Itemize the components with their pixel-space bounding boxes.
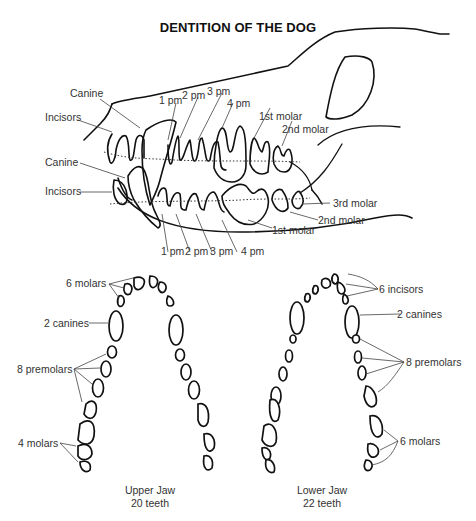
label-upper-jaw-premolars: 8 premolars bbox=[17, 364, 72, 375]
label-upper-4pm: 4 pm bbox=[227, 98, 250, 109]
label-lower-1pm: 1 pm bbox=[161, 246, 184, 257]
label-upper-incisors: Incisors bbox=[45, 112, 81, 123]
label-lower-1st-molar: 1st molar bbox=[272, 225, 315, 236]
lower-jaw-caption-title: Lower Jaw bbox=[282, 484, 362, 497]
label-upper-jaw-molars: 4 molars bbox=[18, 438, 58, 449]
label-upper-jaw-front: 6 molars bbox=[66, 278, 106, 289]
label-upper-2pm: 2 pm bbox=[182, 90, 205, 101]
label-upper-2nd-molar: 2nd molar bbox=[282, 124, 329, 135]
label-lower-jaw-incisors: 6 incisors bbox=[379, 284, 423, 295]
lower-jaw-arch bbox=[262, 274, 382, 473]
label-lower-jaw-canines: 2 canines bbox=[397, 309, 442, 320]
upper-jaw-caption-count: 20 teeth bbox=[110, 497, 190, 510]
label-lower-2nd-molar: 2nd molar bbox=[318, 215, 365, 226]
label-upper-jaw-canines: 2 canines bbox=[44, 318, 89, 329]
upper-jaw-arch bbox=[78, 276, 215, 472]
label-lower-jaw-molars: 6 molars bbox=[400, 436, 440, 447]
label-upper-3pm: 3 pm bbox=[207, 86, 230, 97]
label-lower-3pm: 3 pm bbox=[210, 246, 233, 257]
upper-jaw-caption: Upper Jaw 20 teeth bbox=[110, 484, 190, 510]
label-lower-2pm: 2 pm bbox=[185, 246, 208, 257]
label-lower-jaw-premolars: 8 premolars bbox=[406, 357, 461, 368]
upper-jaw-caption-title: Upper Jaw bbox=[110, 484, 190, 497]
label-lower-4pm: 4 pm bbox=[241, 246, 264, 257]
label-upper-canine: Canine bbox=[70, 88, 103, 99]
label-upper-1pm: 1 pm bbox=[159, 95, 182, 106]
skull-outline bbox=[84, 28, 449, 232]
lower-jaw-caption-count: 22 teeth bbox=[282, 497, 362, 510]
label-upper-1st-molar: 1st molar bbox=[259, 111, 302, 122]
label-lower-3rd-molar: 3rd molar bbox=[333, 198, 377, 209]
lower-teeth-side bbox=[110, 167, 310, 228]
lower-jaw-caption: Lower Jaw 22 teeth bbox=[282, 484, 362, 510]
label-lower-incisors: Incisors bbox=[45, 186, 81, 197]
label-lower-canine: Canine bbox=[45, 157, 78, 168]
